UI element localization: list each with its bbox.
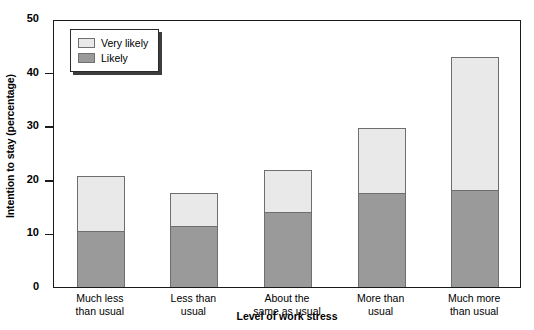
- x-axis-title: Level of work stress: [53, 310, 521, 322]
- y-axis-tick-mark: [45, 234, 53, 236]
- y-axis-tick-label: 50: [27, 12, 39, 24]
- y-axis-tick-mark: [45, 73, 53, 75]
- bar-group[interactable]: [170, 193, 218, 287]
- bar-segment-likely[interactable]: [170, 226, 218, 287]
- bar-segment-likely[interactable]: [264, 212, 312, 287]
- y-axis-title-text: Intention to stay (percentage): [4, 74, 16, 218]
- legend-swatch-very-likely: [78, 38, 95, 48]
- y-axis-tick-label: 20: [27, 173, 39, 185]
- bar-group[interactable]: [358, 128, 406, 287]
- y-axis-title: Intention to stay (percentage): [0, 0, 20, 292]
- legend-item-very-likely: Very likely: [78, 36, 148, 50]
- legend-label-very-likely: Very likely: [101, 37, 148, 49]
- y-axis-tick-mark: [45, 126, 53, 128]
- bar-segment-very-likely[interactable]: [77, 176, 125, 231]
- y-axis-tick-label: 40: [27, 66, 39, 78]
- y-axis-tick-label: 30: [27, 119, 39, 131]
- bar-segment-likely[interactable]: [358, 193, 406, 287]
- legend-label-likely: Likely: [101, 52, 128, 64]
- bar-segment-likely[interactable]: [451, 190, 499, 287]
- legend-item-likely: Likely: [78, 51, 148, 65]
- stacked-bar-chart: Intention to stay (percentage) 010203040…: [0, 0, 534, 330]
- bar-group[interactable]: [451, 57, 499, 287]
- bar-segment-very-likely[interactable]: [451, 57, 499, 190]
- bar-group[interactable]: [77, 176, 125, 287]
- bar-segment-very-likely[interactable]: [358, 128, 406, 193]
- y-axis-tick-mark: [45, 180, 53, 182]
- bar-segment-likely[interactable]: [77, 231, 125, 287]
- bar-segment-very-likely[interactable]: [170, 193, 218, 226]
- y-axis-tick-label: 10: [27, 226, 39, 238]
- chart-legend: Very likely Likely: [70, 29, 159, 72]
- bar-segment-very-likely[interactable]: [264, 170, 312, 212]
- legend-swatch-likely: [78, 53, 95, 63]
- y-axis-tick-label: 0: [33, 280, 39, 292]
- bar-group[interactable]: [264, 170, 312, 287]
